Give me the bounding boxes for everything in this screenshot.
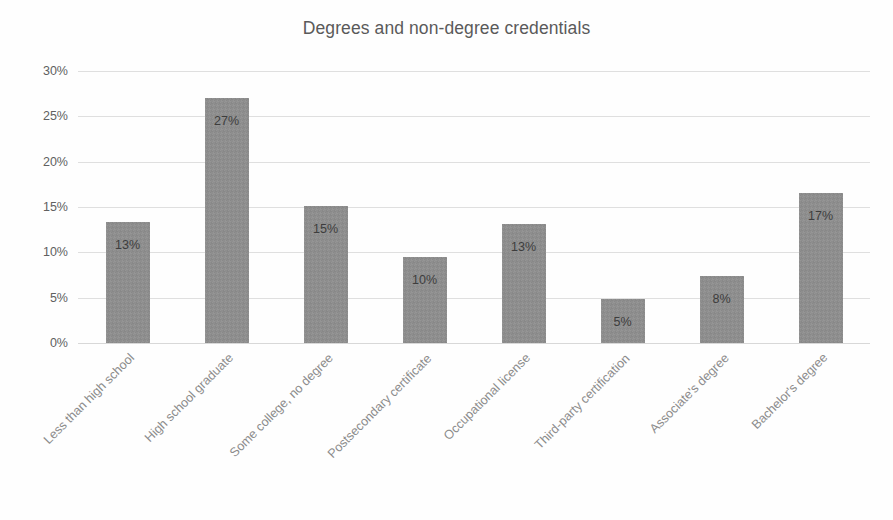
- y-tick-label: 15%: [0, 200, 68, 214]
- gridline: [78, 116, 870, 117]
- bar: 27%: [205, 98, 249, 343]
- x-tick-label: Third-party certification: [532, 351, 632, 451]
- bar-value-label: 17%: [799, 209, 843, 223]
- x-tick-label: Associate's degree: [647, 351, 732, 436]
- x-tick-label: Postsecondary certificate: [325, 351, 434, 460]
- bar-value-label: 15%: [304, 222, 348, 236]
- x-tick-label: High school graduate: [142, 351, 236, 445]
- plot-area: 13%27%15%10%13%5%8%17%: [78, 71, 870, 343]
- y-tick-label: 30%: [0, 64, 68, 78]
- y-tick-label: 0%: [0, 336, 68, 350]
- bar: 17%: [799, 193, 843, 344]
- gridline: [78, 207, 870, 208]
- x-tick-label: Occupational license: [441, 351, 533, 443]
- x-tick-label: Some college, no degree: [227, 351, 336, 460]
- x-axis: Less than high schoolHigh school graduat…: [78, 343, 870, 520]
- y-tick-label: 5%: [0, 291, 68, 305]
- x-tick-label: Bachelor's degree: [749, 351, 830, 432]
- bar-value-label: 13%: [502, 240, 546, 254]
- bar-value-label: 27%: [205, 114, 249, 128]
- gridline: [78, 252, 870, 253]
- bar-chart: Degrees and non-degree credentials 30%25…: [0, 0, 893, 520]
- bar-value-label: 8%: [700, 292, 744, 306]
- gridline: [78, 162, 870, 163]
- bar-value-label: 5%: [601, 315, 645, 329]
- y-axis: 30%25%20%15%10%5%0%: [0, 71, 68, 343]
- chart-title: Degrees and non-degree credentials: [0, 18, 893, 39]
- bar: 15%: [304, 206, 348, 343]
- y-tick-label: 20%: [0, 155, 68, 169]
- x-tick-label: Less than high school: [41, 351, 137, 447]
- y-tick-label: 25%: [0, 109, 68, 123]
- bar: 13%: [106, 222, 150, 343]
- bar: 13%: [502, 224, 546, 343]
- gridline: [78, 298, 870, 299]
- bar: 10%: [403, 257, 447, 343]
- bar-value-label: 13%: [106, 238, 150, 252]
- bar: 5%: [601, 299, 645, 343]
- gridline: [78, 71, 870, 72]
- y-tick-label: 10%: [0, 245, 68, 259]
- bar: 8%: [700, 276, 744, 343]
- bar-value-label: 10%: [403, 273, 447, 287]
